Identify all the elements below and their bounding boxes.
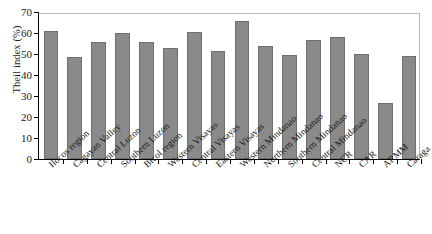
y-tick-label: 0 <box>27 153 33 165</box>
plot-area: 010203040506070 <box>38 13 420 160</box>
bar <box>211 51 226 159</box>
y-tick-label: 70 <box>21 6 32 18</box>
x-tick-mark <box>421 159 422 164</box>
y-tick-label: 40 <box>21 69 32 81</box>
x-tick-mark <box>230 159 231 164</box>
bar <box>115 33 130 159</box>
x-tick-mark <box>87 159 88 164</box>
x-tick-mark <box>326 159 327 164</box>
x-tick-mark <box>63 159 64 164</box>
bars-group <box>39 14 419 159</box>
y-tick-label: 20 <box>21 111 32 123</box>
x-tick-mark <box>158 159 159 164</box>
bar <box>258 46 273 159</box>
bar <box>306 40 321 159</box>
x-tick-mark <box>135 159 136 164</box>
x-tick-mark <box>302 159 303 164</box>
x-tick-mark <box>206 159 207 164</box>
x-tick-mark <box>182 159 183 164</box>
y-tick-label: 60 <box>21 27 32 39</box>
bar <box>163 48 178 159</box>
bar <box>187 32 202 159</box>
x-tick-mark <box>397 159 398 164</box>
bar <box>282 55 297 159</box>
bar <box>378 103 393 159</box>
bar <box>402 56 417 159</box>
bar <box>235 21 250 159</box>
x-tick-mark <box>111 159 112 164</box>
y-tick-label: 10 <box>21 132 32 144</box>
x-tick-mark <box>349 159 350 164</box>
y-tick-label: 50 <box>21 48 32 60</box>
bar <box>330 37 345 159</box>
x-tick-mark <box>254 159 255 164</box>
x-tick-mark <box>373 159 374 164</box>
x-tick-mark <box>278 159 279 164</box>
bar <box>44 31 59 159</box>
y-axis-title: Theil index (%) <box>11 0 22 120</box>
y-tick-label: 30 <box>21 90 32 102</box>
bar <box>354 54 369 159</box>
bar <box>67 57 82 159</box>
bar <box>91 42 106 159</box>
y-tick-mark <box>34 12 39 13</box>
y-tick-mark <box>34 159 39 160</box>
bar <box>139 42 154 159</box>
